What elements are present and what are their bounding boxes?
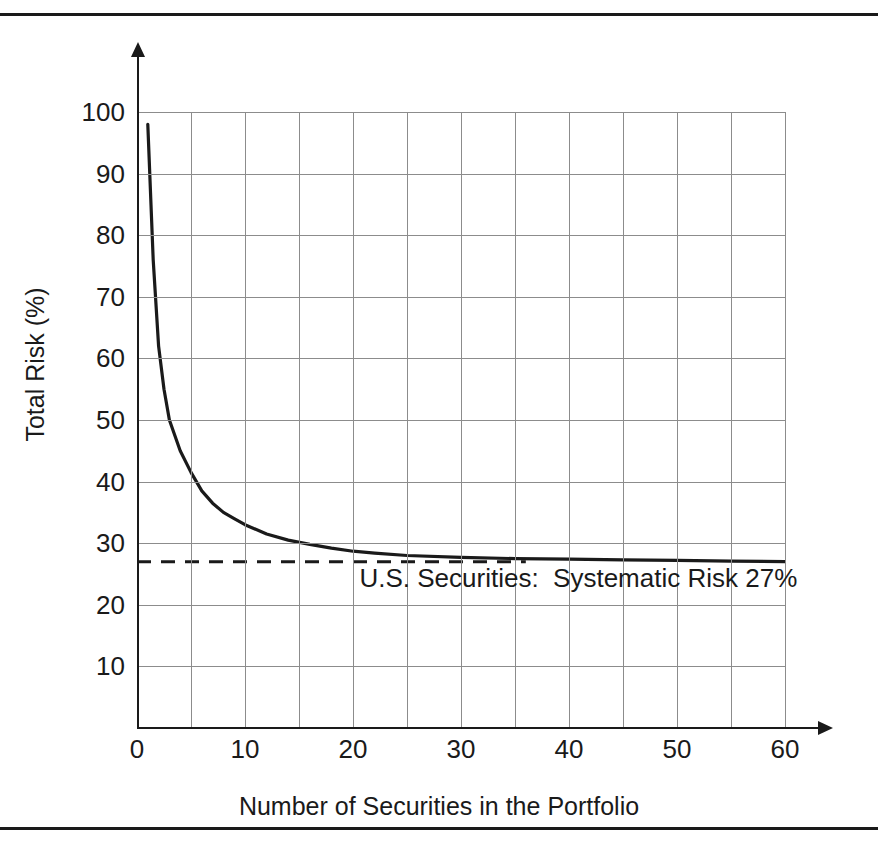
figure-page: U.S. Securities: Systematic Risk 27% 102…: [0, 0, 878, 844]
x-axis-tick-labels: 0102030405060: [0, 736, 878, 776]
y-tick-label: 100: [65, 99, 125, 125]
y-tick-label: 60: [65, 345, 125, 371]
gridline-horizontal: [137, 358, 785, 359]
x-axis-title: Number of Securities in the Portfolio: [0, 792, 878, 821]
x-tick-label: 50: [642, 736, 712, 762]
gridline-horizontal: [137, 235, 785, 236]
y-tick-label: 30: [65, 530, 125, 556]
gridline-horizontal: [137, 605, 785, 606]
y-tick-label: 50: [65, 407, 125, 433]
total-risk-curve: [148, 124, 785, 561]
y-tick-label: 80: [65, 222, 125, 248]
x-tick-label: 10: [210, 736, 280, 762]
gridline-horizontal: [137, 112, 785, 113]
x-tick-label: 60: [750, 736, 820, 762]
y-axis-line: [137, 52, 139, 729]
systematic-risk-annotation: U.S. Securities: Systematic Risk 27%: [359, 563, 797, 594]
y-axis-title-wrap: Total Risk (%): [0, 350, 72, 390]
plot-area: U.S. Securities: Systematic Risk 27%: [137, 112, 785, 728]
x-axis-arrow-icon: [818, 721, 833, 735]
page-rule-bottom: [0, 827, 878, 830]
y-tick-label: 10: [65, 653, 125, 679]
page-rule-top: [0, 13, 878, 16]
y-axis-title: Total Risk (%): [21, 240, 50, 490]
x-tick-label: 0: [102, 736, 172, 762]
gridline-horizontal: [137, 297, 785, 298]
x-tick-label: 40: [534, 736, 604, 762]
x-tick-label: 30: [426, 736, 496, 762]
y-axis-arrow-icon: [131, 42, 145, 57]
gridline-horizontal: [137, 420, 785, 421]
gridline-horizontal: [137, 666, 785, 667]
gridline-horizontal: [137, 174, 785, 175]
gridline-vertical: [785, 112, 786, 728]
y-tick-label: 90: [65, 161, 125, 187]
gridline-horizontal: [137, 543, 785, 544]
y-tick-label: 40: [65, 469, 125, 495]
risk-diversification-chart: U.S. Securities: Systematic Risk 27% 102…: [0, 20, 878, 820]
y-tick-label: 20: [65, 592, 125, 618]
y-tick-label: 70: [65, 284, 125, 310]
gridline-horizontal: [137, 482, 785, 483]
y-axis-tick-labels: 102030405060708090100: [53, 20, 125, 820]
x-tick-label: 20: [318, 736, 388, 762]
x-axis-line: [137, 727, 825, 729]
